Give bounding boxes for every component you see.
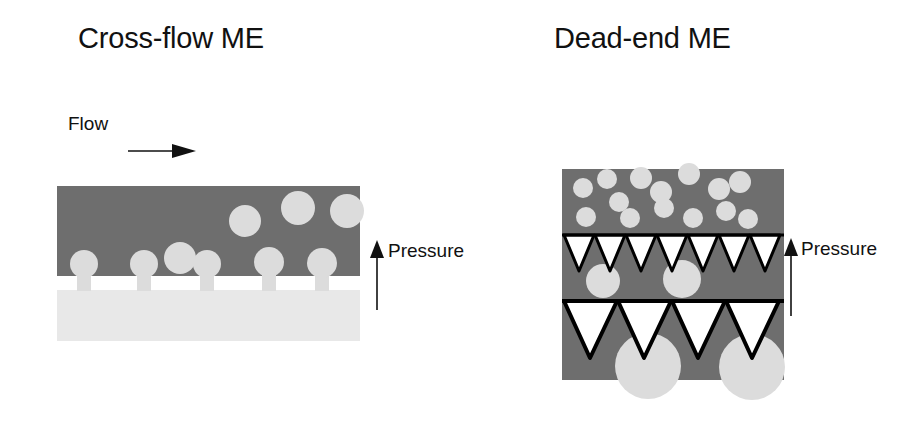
pressure-arrow-icon-crossflow bbox=[369, 240, 385, 312]
deadend-diagram bbox=[562, 169, 784, 380]
pressure-label-crossflow: Pressure bbox=[388, 240, 464, 262]
crossflow-title: Cross-flow ME bbox=[78, 22, 264, 55]
pressure-arrow-icon-deadend bbox=[783, 238, 799, 318]
pressure-label-deadend: Pressure bbox=[801, 238, 877, 260]
panel-crossflow: Cross-flow ME Flow bbox=[0, 0, 480, 434]
crossflow-diagram bbox=[57, 186, 360, 341]
flow-label: Flow bbox=[68, 113, 108, 135]
panel-deadend: Dead-end ME bbox=[480, 0, 924, 434]
flow-arrow-icon bbox=[128, 142, 198, 160]
deadend-title: Dead-end ME bbox=[554, 22, 731, 55]
